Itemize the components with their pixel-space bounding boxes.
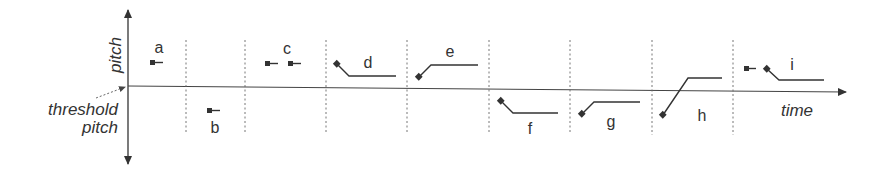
- panel-d: d: [333, 54, 396, 76]
- glide-contour: [663, 78, 722, 115]
- time-axis: [128, 86, 846, 92]
- threshold-pointer-arrow: [96, 87, 125, 98]
- glide-contour: [419, 65, 478, 77]
- panel-label-i: i: [790, 56, 794, 73]
- note-onset-square: [288, 61, 293, 66]
- panel-b: b: [207, 108, 220, 136]
- panel-c: c: [265, 40, 301, 66]
- panel-label-h: h: [698, 107, 707, 124]
- glide-contour: [767, 69, 824, 80]
- panel-label-a: a: [155, 39, 164, 56]
- panel-label-f: f: [528, 120, 533, 137]
- panel-h: h: [659, 78, 722, 124]
- note-onset-square: [265, 61, 270, 66]
- panel-label-b: b: [211, 119, 220, 136]
- glide-contour: [501, 101, 558, 113]
- threshold-label-line1: threshold: [48, 100, 118, 119]
- threshold-label-line2: pitch: [81, 118, 118, 137]
- panel-g: g: [578, 102, 640, 130]
- pitch-contour-diagram: pitch threshold pitch time a b c d e f: [0, 0, 888, 172]
- panel-e: e: [415, 43, 478, 81]
- panel-f: f: [497, 97, 558, 137]
- panel-label-d: d: [364, 54, 373, 71]
- y-axis-label: pitch: [106, 37, 125, 74]
- panel-a: a: [150, 39, 164, 65]
- panel-label-g: g: [607, 113, 616, 130]
- panel-label-e: e: [446, 43, 455, 60]
- note-onset-square: [150, 60, 155, 65]
- x-axis-label: time: [781, 101, 813, 120]
- note-onset-square: [744, 66, 749, 71]
- panel-i: i: [744, 56, 824, 80]
- panel-label-c: c: [283, 40, 291, 57]
- note-onset-square: [207, 108, 212, 113]
